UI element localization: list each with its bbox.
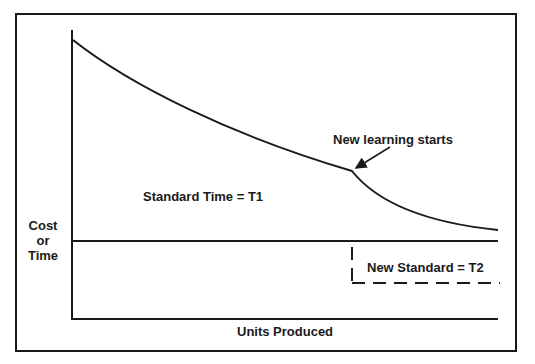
y-axis-label-line-1: Cost <box>22 218 64 233</box>
y-axis-label-line-2: or <box>22 233 64 248</box>
x-axis-label: Units Produced <box>237 324 333 339</box>
standard-time-t1-label: Standard Time = T1 <box>143 189 263 204</box>
new-learning-annotation: New learning starts <box>333 132 453 147</box>
y-axis-label: Cost or Time <box>22 218 64 263</box>
learning-curve-diagram <box>0 0 535 364</box>
annotation-arrow <box>356 147 390 168</box>
new-standard-t2-label: New Standard = T2 <box>367 260 484 275</box>
y-axis-label-line-3: Time <box>22 248 64 263</box>
